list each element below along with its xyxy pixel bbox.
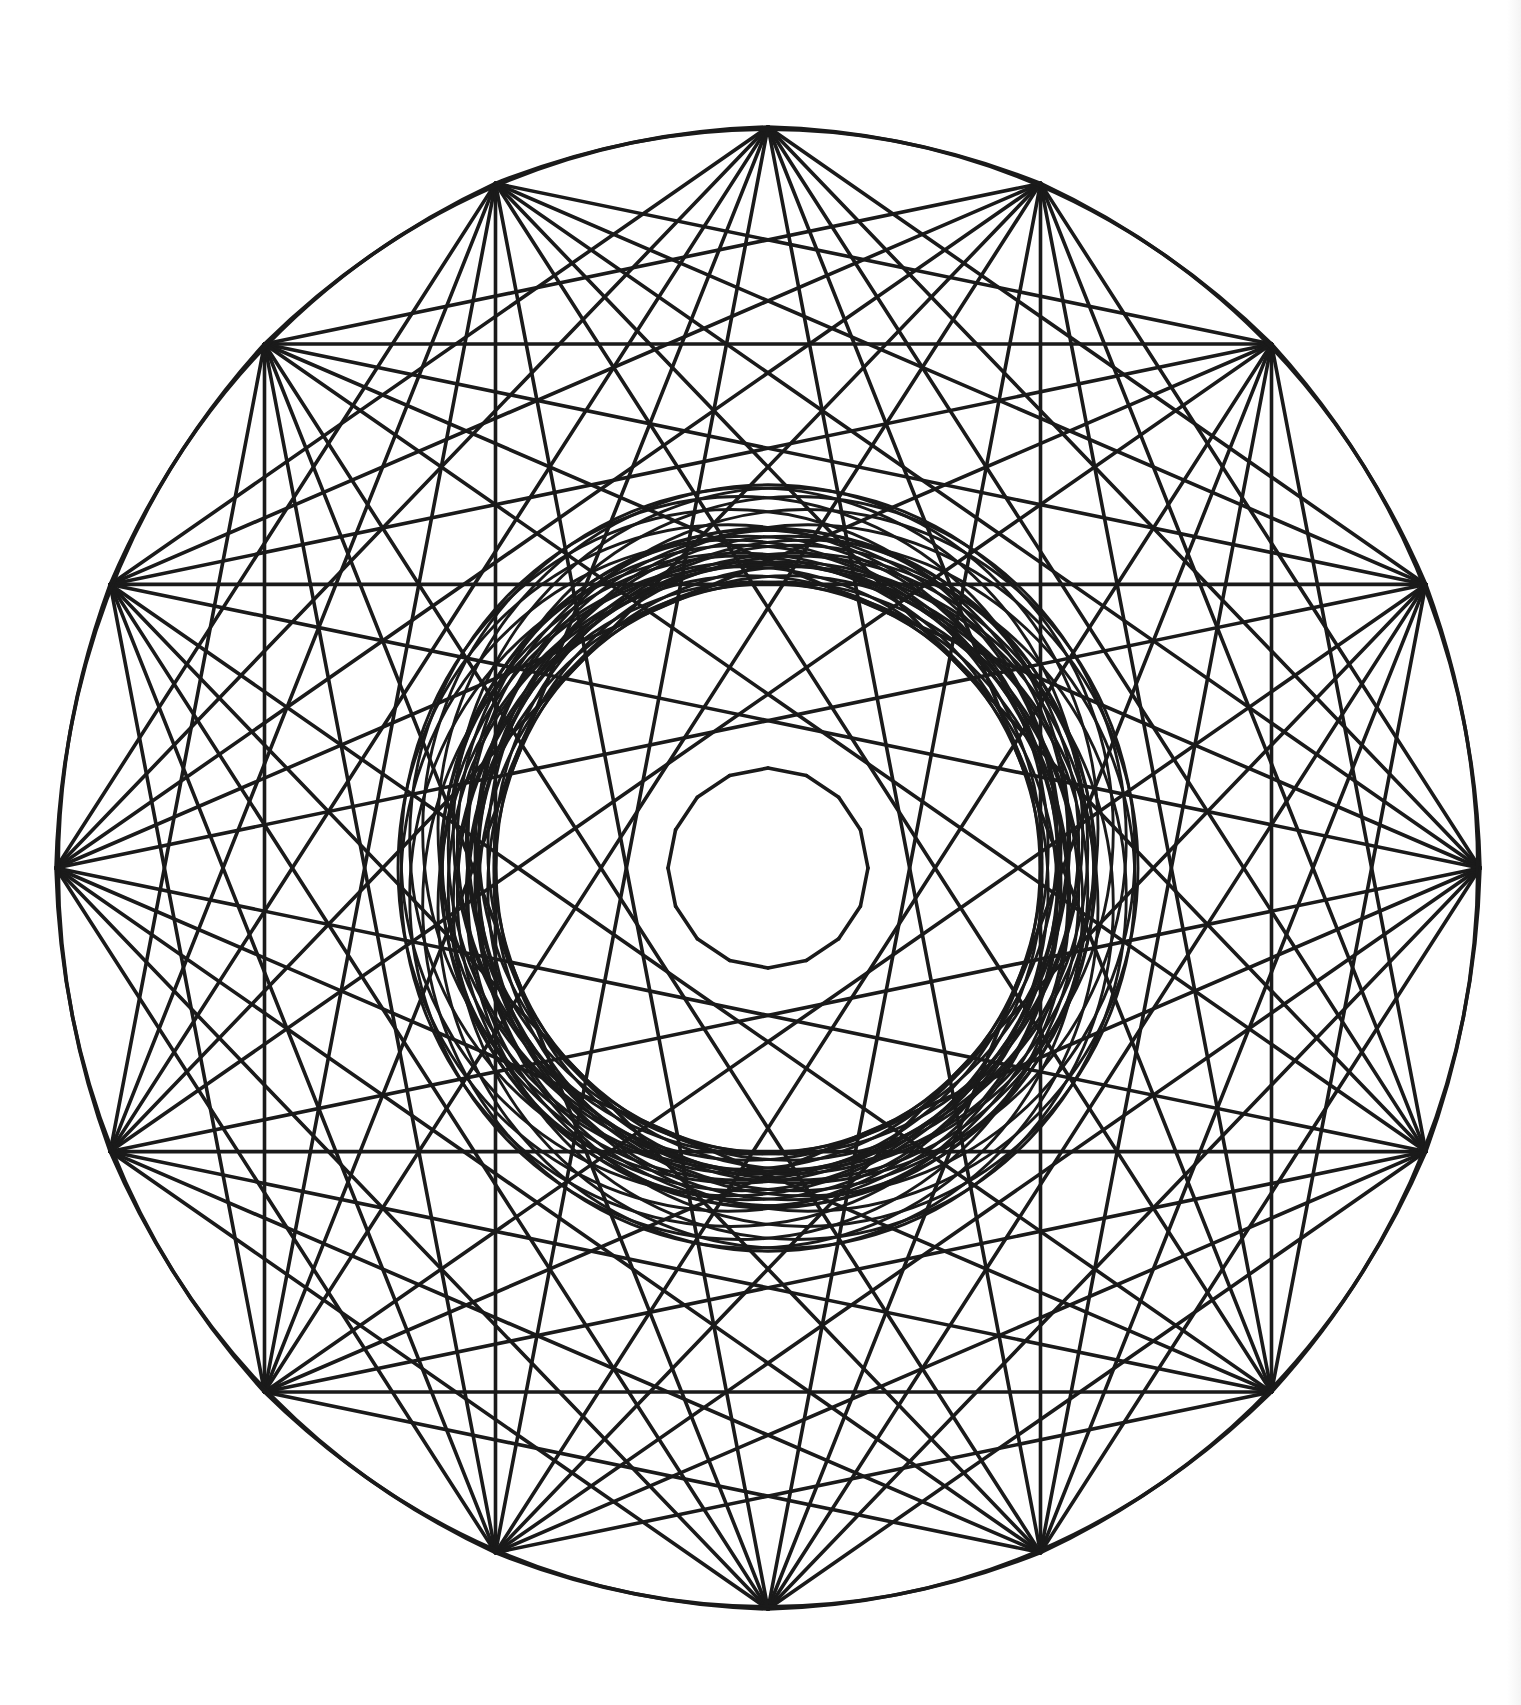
spirograph-artwork xyxy=(0,0,1521,1705)
scan-edge-shading xyxy=(1507,0,1521,1705)
